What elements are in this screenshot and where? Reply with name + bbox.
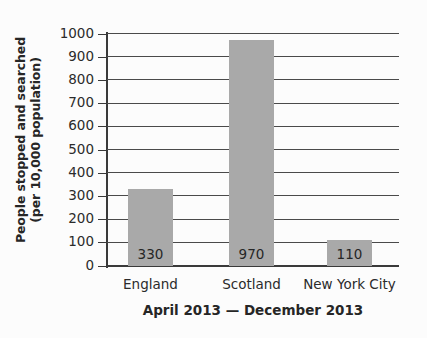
bar-value-label: 330 bbox=[128, 246, 173, 262]
x-axis-category-label: New York City bbox=[280, 276, 420, 292]
bar: 110 bbox=[327, 240, 372, 266]
bar-value-label: 970 bbox=[229, 246, 274, 262]
bar-value-label: 110 bbox=[327, 246, 372, 262]
bar: 970 bbox=[229, 40, 274, 265]
chart-title: April 2013 — December 2013 bbox=[107, 302, 399, 318]
bar-chart: People stopped and searched (per 10,000 … bbox=[0, 0, 427, 338]
bar: 330 bbox=[128, 189, 173, 266]
x-axis-category-labels: EnglandScotlandNew York City bbox=[0, 276, 427, 296]
bars-layer: 330970110 bbox=[0, 0, 427, 266]
